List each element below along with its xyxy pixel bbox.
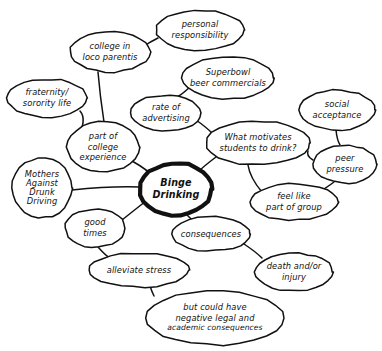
mindmap-edge [244,244,262,258]
mindmap-canvas: personalresponsibilitycollege inloco par… [0,0,382,351]
mindmap-node-mothers-against-drunk-driving[interactable]: MothersAgainstDrunkDriving [12,158,73,218]
node-label-line: personal [181,19,219,29]
mindmap-node-but-could-have-negative-legal-and-academic-consequences[interactable]: but could havenegative legal andacademic… [146,291,284,346]
mindmap-node-what-motivates-students-to-drink[interactable]: What motivatesstudents to drink? [207,121,311,164]
mindmap-edge [336,130,340,145]
mindmap-edge [248,165,262,192]
mindmap-edge [98,72,104,122]
mindmap-node-part-of-college-experience[interactable]: part ofcollegeexperience [66,121,140,172]
node-label-line: part of [88,131,118,141]
node-label-line: Drinking [153,189,200,200]
mindmap-node-fraternity-sorority-life[interactable]: fraternity/sorority life [7,79,88,117]
node-label-line: pressure [325,164,363,174]
mindmap-node-death-and-or-injury[interactable]: death and/orinjury [254,253,333,291]
node-label-line: loco parentis [83,52,139,62]
node-label-line: advertising [142,113,190,123]
node-label-line: part of group [265,202,322,212]
node-label-line: fraternity/ [26,87,70,97]
node-label-line: injury [282,272,306,282]
nodes-layer: personalresponsibilitycollege inloco par… [7,10,378,345]
node-label-line: but could have [183,302,246,312]
node-label-line: Superbowl [206,67,251,77]
node-label-line: Binge [160,177,192,188]
node-label-line: beer commercials [190,78,267,88]
mindmap-edge [72,187,140,190]
node-label-line: What motivates [224,132,292,142]
mindmap-node-personal-responsibility[interactable]: personalresponsibility [156,10,244,50]
mindmap-diagram: personalresponsibilitycollege inloco par… [0,0,382,351]
node-label-line: negative legal and [175,313,255,323]
node-label-line: Driving [27,196,58,206]
mindmap-node-rate-of-advertising[interactable]: rate ofadvertising [131,95,201,131]
node-label-line: acceptance [313,110,362,120]
node-label-line: good [84,217,106,227]
mindmap-node-consequences[interactable]: consequences [172,216,251,251]
mindmap-node-peer-pressure[interactable]: peerpressure [313,145,377,184]
mindmap-node-college-in-loco-parentis[interactable]: college inloco parentis [70,32,151,73]
mindmap-edge [122,201,146,220]
node-label-line: students to drink? [220,143,297,153]
mindmap-node-good-times[interactable]: goodtimes [65,209,125,248]
node-label-line: feel like [277,191,311,201]
node-label-line: alleviate stress [107,265,172,275]
mindmap-node-feel-like-part-of-group[interactable]: feel likepart of group [250,183,339,220]
node-label-line: academic consequences [167,323,262,332]
node-label-line: college in [90,41,131,51]
mindmap-edge [196,120,212,133]
mindmap-node-binge-drinking[interactable]: BingeDrinking [140,163,212,215]
node-label-line: rate of [152,102,181,112]
node-label-line: responsibility [172,30,229,40]
node-label-line: times [83,228,107,238]
node-label-line: peer [334,153,355,163]
mindmap-node-superbowl-beer-commercials[interactable]: Superbowlbeer commercials [181,57,274,99]
node-label-line: consequences [181,229,242,239]
mindmap-edge [308,151,313,160]
node-label-line: death and/or [267,261,322,271]
mindmap-node-alleviate-stress[interactable]: alleviate stress [89,253,190,287]
node-label-line: college [88,142,118,152]
node-label-line: experience [79,152,126,162]
node-label-line: sorority life [23,98,71,108]
mindmap-node-social-acceptance[interactable]: socialacceptance [299,90,376,131]
node-label-line: social [325,99,350,109]
